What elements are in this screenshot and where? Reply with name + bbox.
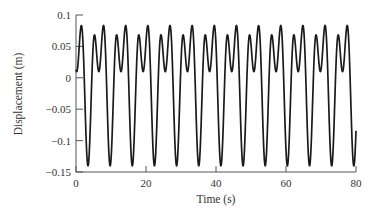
x-tick-label: 0 bbox=[73, 177, 79, 189]
y-ticks: 0.10.050−0.05−0.1−0.15 bbox=[46, 9, 83, 178]
y-tick-label: 0.05 bbox=[52, 40, 72, 52]
y-tick-label: 0 bbox=[66, 72, 72, 84]
displacement-chart: 0.10.050−0.05−0.1−0.15 020406080 Time (s… bbox=[0, 0, 376, 216]
y-tick-label: 0.1 bbox=[57, 9, 71, 21]
y-axis-title: Displacement (m) bbox=[12, 52, 25, 135]
x-tick-label: 40 bbox=[211, 177, 223, 189]
y-tick-label: −0.05 bbox=[46, 103, 72, 115]
x-tick-label: 60 bbox=[281, 177, 293, 189]
series-layer bbox=[76, 25, 356, 165]
y-tick-label: −0.15 bbox=[46, 166, 72, 178]
x-tick-label: 80 bbox=[351, 177, 363, 189]
x-axis-title: Time (s) bbox=[197, 193, 236, 206]
series-line-displacement bbox=[76, 25, 356, 165]
y-tick-label: −0.1 bbox=[51, 135, 71, 147]
x-ticks: 020406080 bbox=[73, 166, 362, 189]
x-tick-label: 20 bbox=[141, 177, 153, 189]
